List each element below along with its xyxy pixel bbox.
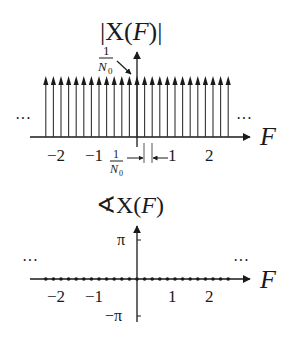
phase-point	[112, 277, 116, 281]
impulse-arrowhead-icon	[203, 76, 208, 85]
impulse-arrowhead-icon	[180, 76, 185, 85]
phase-point	[226, 277, 230, 281]
tick-neg1: −1	[85, 146, 103, 165]
phase-tick-neg2: −2	[47, 287, 65, 306]
phase-point	[135, 277, 139, 281]
phase-point	[105, 277, 109, 281]
phase-point	[181, 277, 185, 281]
impulse-arrowhead-icon	[226, 76, 231, 85]
phase-title: ∢X(F)	[96, 192, 164, 218]
phase-point	[219, 277, 223, 281]
phase-point	[173, 277, 177, 281]
fourier-spectrum-diagram: |X(F)| 1 N 0 ··· ··· F −2 −1 1 2 1 N 0	[0, 0, 302, 346]
impulse-arrowhead-icon	[119, 76, 124, 85]
svg-text:0: 0	[119, 169, 123, 178]
phase-left-ellipsis: ···	[22, 252, 38, 269]
impulse-arrowhead-icon	[150, 76, 155, 85]
phase-point	[143, 277, 147, 281]
impulse-arrowhead-icon	[58, 76, 63, 85]
phase-tick-2: 2	[205, 287, 214, 306]
phase-point	[158, 277, 162, 281]
impulse-arrowhead-icon	[218, 76, 223, 85]
phase-point	[82, 277, 86, 281]
phase-point	[67, 277, 71, 281]
right-ellipsis: ···	[236, 110, 252, 127]
impulse-arrowhead-icon	[81, 76, 86, 85]
tick-2: 2	[205, 146, 214, 165]
phase-point	[74, 277, 78, 281]
left-ellipsis: ···	[15, 110, 31, 127]
impulse-arrowhead-icon	[210, 76, 215, 85]
impulse-arrowhead-icon	[142, 76, 147, 85]
phase-tick-neg1: −1	[85, 287, 103, 306]
phase-point	[150, 277, 154, 281]
x-axis-label: F	[259, 122, 277, 151]
magnitude-title: |X(F)|	[100, 17, 162, 46]
spacing-label: 1 N 0	[109, 143, 168, 178]
impulse-arrowhead-icon	[43, 76, 48, 85]
svg-text:1: 1	[113, 147, 119, 161]
phase-point	[128, 277, 132, 281]
impulse-arrowhead-icon	[134, 76, 139, 85]
tick-pi: π	[117, 231, 125, 248]
svg-text:0: 0	[108, 66, 113, 76]
impulse-arrowhead-icon	[51, 76, 56, 85]
tick-neg2: −2	[47, 146, 65, 165]
tick-1: 1	[168, 146, 177, 165]
impulse-arrowhead-icon	[172, 76, 177, 85]
phase-plot: ∢X(F) π −π ··· ··· F −2 −1 1 2	[22, 192, 277, 324]
phase-point	[196, 277, 200, 281]
impulse-arrowhead-icon	[104, 76, 109, 85]
svg-text:N: N	[109, 162, 119, 176]
impulse-arrowhead-icon	[195, 76, 200, 85]
phase-tick-1: 1	[168, 287, 177, 306]
tick-neg-pi: −π	[105, 307, 122, 324]
phase-point	[211, 277, 215, 281]
svg-text:1: 1	[103, 43, 110, 58]
impulse-arrowhead-icon	[66, 76, 71, 85]
impulse-arrowhead-icon	[165, 76, 170, 85]
pointer-arrow	[117, 61, 131, 74]
phase-point	[59, 277, 63, 281]
magnitude-plot: |X(F)| 1 N 0 ··· ··· F −2 −1 1 2 1 N 0	[15, 17, 277, 178]
phase-point	[90, 277, 94, 281]
phase-point	[120, 277, 124, 281]
impulse-arrowhead-icon	[157, 76, 162, 85]
phase-right-ellipsis: ···	[233, 252, 249, 269]
phase-point	[52, 277, 56, 281]
impulse-arrowhead-icon	[127, 76, 132, 85]
impulse-height-label: 1 N 0	[97, 43, 131, 76]
svg-text:N: N	[97, 59, 108, 74]
impulse-arrowhead-icon	[188, 76, 193, 85]
phase-point	[166, 277, 170, 281]
impulse-arrowhead-icon	[96, 76, 101, 85]
phase-point	[188, 277, 192, 281]
impulse-arrowhead-icon	[74, 76, 79, 85]
impulse-arrowhead-icon	[112, 76, 117, 85]
impulse-train	[43, 76, 231, 137]
phase-point	[44, 277, 48, 281]
phase-point	[204, 277, 208, 281]
phase-point	[97, 277, 101, 281]
impulse-arrowhead-icon	[89, 76, 94, 85]
phase-x-axis-label: F	[259, 265, 277, 294]
